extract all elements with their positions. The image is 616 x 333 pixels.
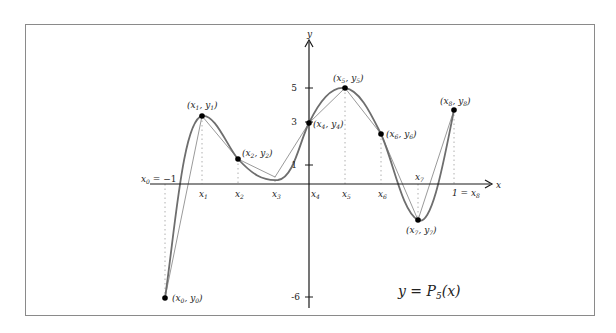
y-tick-neg6: -6 bbox=[291, 292, 300, 302]
svg-text:(x1, y1): (x1, y1) bbox=[187, 100, 218, 111]
svg-text:x1: x1 bbox=[199, 189, 208, 200]
left-endpoint-label: x0 = −1 bbox=[141, 174, 176, 185]
svg-text:x2: x2 bbox=[235, 189, 244, 200]
svg-text:(x4, y4): (x4, y4) bbox=[313, 119, 344, 130]
svg-text:(x7, y7): (x7, y7) bbox=[406, 225, 437, 236]
svg-text:x5: x5 bbox=[342, 189, 351, 200]
x-node-labels: x1 x2 x3 x4 x5 x6 x7 bbox=[199, 172, 424, 200]
svg-text:x3: x3 bbox=[272, 189, 281, 200]
y-tick-3: 3 bbox=[291, 117, 297, 127]
x-axis bbox=[150, 180, 492, 188]
svg-text:x6: x6 bbox=[378, 189, 387, 200]
point-labels: (x0, y0) (x1, y1) (x2, y2) (x4, y4) (x5,… bbox=[172, 73, 471, 304]
interpolation-diagram: 5 3 1 -6 x y x0 = −1 1 = x8 x1 x2 x3 x4 … bbox=[0, 0, 616, 333]
y-axis bbox=[305, 40, 313, 308]
svg-text:(x5, y5): (x5, y5) bbox=[333, 73, 364, 84]
curve-equation: y = P5(x) bbox=[397, 283, 461, 301]
svg-text:(x0, y0): (x0, y0) bbox=[172, 293, 203, 304]
svg-text:x4: x4 bbox=[311, 189, 320, 200]
svg-text:x7: x7 bbox=[415, 172, 424, 183]
svg-text:(x2, y2): (x2, y2) bbox=[242, 148, 273, 159]
svg-text:(x6, y6): (x6, y6) bbox=[386, 129, 417, 140]
right-endpoint-label: 1 = x8 bbox=[452, 188, 480, 199]
svg-text:(x8, y8): (x8, y8) bbox=[440, 96, 471, 107]
y-tick-1: 1 bbox=[291, 160, 297, 170]
y-tick-5: 5 bbox=[291, 83, 297, 93]
x-axis-label: x bbox=[496, 180, 501, 190]
y-axis-label: y bbox=[306, 29, 313, 39]
